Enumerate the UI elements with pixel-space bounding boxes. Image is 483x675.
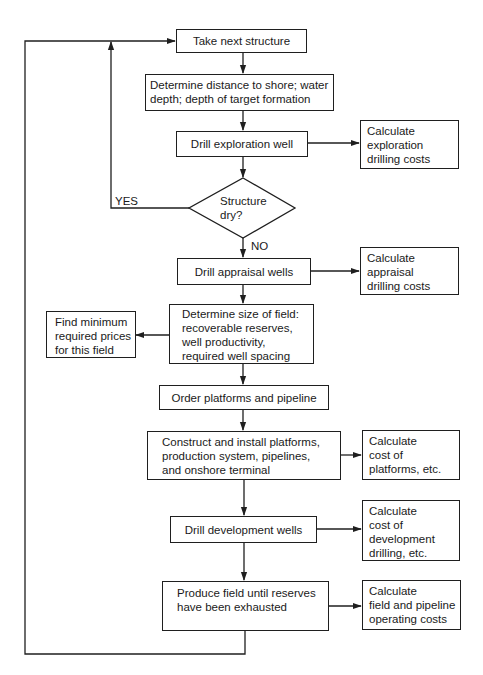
node-text: Drill development wells xyxy=(185,523,303,537)
node-text: required prices xyxy=(55,329,127,343)
node-text: operating costs xyxy=(369,612,454,626)
node-text: dry? xyxy=(220,208,267,222)
node-text: Calculate xyxy=(369,434,453,448)
node-determine-distance: Determine distance to shore; water depth… xyxy=(145,74,334,111)
node-produce-field: Produce field until reserves have been e… xyxy=(162,581,329,631)
node-calc-development-costs: Calculate cost of development drilling, … xyxy=(362,500,460,561)
edge-dry-yes-loop xyxy=(111,42,189,208)
edge-label-yes: YES xyxy=(115,195,138,208)
node-text: Order platforms and pipeline xyxy=(171,391,316,405)
flowchart-canvas: Take next structure Determine distance t… xyxy=(0,0,483,675)
node-text: Find minimum xyxy=(55,315,127,329)
node-text: cost of xyxy=(369,448,453,462)
node-calc-operating-costs: Calculate field and pipeline operating c… xyxy=(362,580,461,630)
node-construct-install: Construct and install platforms, product… xyxy=(147,431,341,480)
node-text: Calculate xyxy=(367,124,452,138)
edge-label-no: NO xyxy=(251,240,268,253)
node-drill-appraisal-wells: Drill appraisal wells xyxy=(177,258,311,285)
node-text: platforms, etc. xyxy=(369,462,453,476)
node-structure-dry-decision: Structure dry? xyxy=(220,194,267,222)
node-text: drilling costs xyxy=(367,152,452,166)
node-text: Structure xyxy=(220,194,267,208)
node-text: Drill appraisal wells xyxy=(195,265,293,279)
node-text: Determine distance to shore; water xyxy=(150,78,329,92)
node-text: Take next structure xyxy=(193,34,290,48)
node-text: Calculate xyxy=(367,251,452,265)
node-calc-appraisal-costs: Calculate appraisal drilling costs xyxy=(360,247,459,295)
node-find-minimum-prices: Find minimum required prices for this fi… xyxy=(46,311,136,358)
node-text: cost of xyxy=(369,518,453,532)
node-text: appraisal xyxy=(367,265,452,279)
node-text: well productivity, xyxy=(182,335,301,349)
node-text: production system, pipelines, xyxy=(162,449,326,463)
node-text: Calculate xyxy=(369,584,454,598)
node-text: and onshore terminal xyxy=(162,463,326,477)
node-text: Produce field until reserves xyxy=(177,586,314,600)
node-take-next-structure: Take next structure xyxy=(176,29,307,53)
node-text: depth; depth of target formation xyxy=(150,92,329,106)
node-text: field and pipeline xyxy=(369,598,454,612)
node-text: Determine size of field: xyxy=(182,307,301,321)
node-drill-development-wells: Drill development wells xyxy=(170,516,317,543)
node-text: exploration xyxy=(367,138,452,152)
node-text: drilling, etc. xyxy=(369,546,453,560)
node-order-platforms: Order platforms and pipeline xyxy=(159,385,329,410)
node-drill-exploration-well: Drill exploration well xyxy=(176,131,308,157)
node-text: have been exhausted xyxy=(177,600,314,614)
node-calc-exploration-costs: Calculate exploration drilling costs xyxy=(360,120,459,169)
node-text: recoverable reserves, xyxy=(182,321,301,335)
node-text: Calculate xyxy=(369,504,453,518)
node-text: Construct and install platforms, xyxy=(162,435,326,449)
node-text: drilling costs xyxy=(367,279,452,293)
node-text: required well spacing xyxy=(182,349,301,363)
node-determine-field-size: Determine size of field: recoverable res… xyxy=(169,304,314,364)
node-calc-platform-costs: Calculate cost of platforms, etc. xyxy=(362,430,460,480)
node-text: development xyxy=(369,532,453,546)
node-text: for this field xyxy=(55,343,127,357)
node-text: Drill exploration well xyxy=(191,137,293,151)
